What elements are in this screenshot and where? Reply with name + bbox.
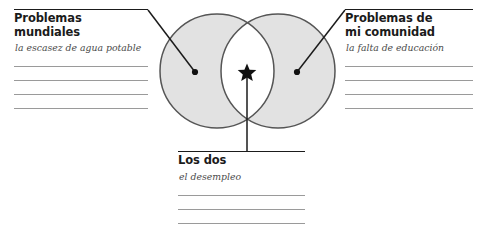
- panel-left-top-rule: [14, 9, 148, 10]
- panel-bottom-answer[interactable]: el desempleo: [178, 171, 305, 182]
- panel-left-writing-lines: [14, 66, 148, 109]
- write-line[interactable]: [345, 66, 473, 67]
- write-line[interactable]: [345, 80, 473, 81]
- write-line[interactable]: [178, 195, 305, 196]
- panel-right-title: Problemas de mi comunidad: [345, 12, 473, 39]
- panel-bottom-writing-lines: [178, 195, 305, 224]
- right-anchor-dot: [294, 69, 300, 75]
- panel-left-title: Problemas mundiales: [14, 12, 148, 39]
- panel-bottom-title: Los dos: [178, 154, 305, 168]
- write-line[interactable]: [345, 108, 473, 109]
- panel-right-top-rule: [345, 9, 473, 10]
- write-line[interactable]: [345, 94, 473, 95]
- panel-both: Los dos el desempleo: [178, 151, 305, 224]
- panel-left-answer[interactable]: la escasez de agua potable: [14, 42, 148, 53]
- write-line[interactable]: [14, 80, 148, 81]
- worksheet-page: Problemas mundiales la escasez de agua p…: [0, 0, 486, 232]
- panel-community-problems: Problemas de mi comunidad la falta de ed…: [345, 9, 473, 109]
- panel-right-answer[interactable]: la falta de educación: [345, 42, 473, 53]
- left-anchor-dot: [192, 69, 198, 75]
- write-line[interactable]: [178, 209, 305, 210]
- panel-global-problems: Problemas mundiales la escasez de agua p…: [14, 9, 148, 109]
- write-line[interactable]: [14, 94, 148, 95]
- write-line[interactable]: [14, 108, 148, 109]
- write-line[interactable]: [14, 66, 148, 67]
- panel-right-writing-lines: [345, 66, 473, 109]
- panel-bottom-top-rule: [178, 151, 305, 152]
- write-line[interactable]: [178, 223, 305, 224]
